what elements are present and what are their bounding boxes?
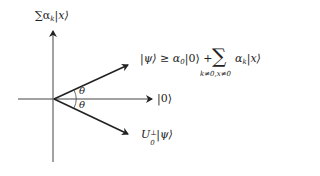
reflected-vector xyxy=(54,99,128,134)
sum-alpha-text: ∑α xyxy=(35,9,50,22)
perp-superscript: ⊥ xyxy=(150,130,157,137)
ket-psi: |ψ⟩ xyxy=(156,128,173,141)
angle-theta-lower: θ xyxy=(79,100,85,110)
psi-vector xyxy=(54,65,128,99)
summation-symbol: ∑ xyxy=(212,46,226,66)
psi-lhs: |ψ⟩ ≥ α0|0⟩ + xyxy=(140,53,212,66)
summation-limits: k≠0,x≠0 xyxy=(200,71,231,78)
angle-theta-upper: θ xyxy=(79,86,85,96)
zero-subscript: 0 xyxy=(150,140,154,147)
operator-u: U xyxy=(141,128,150,141)
vertical-axis-label: ∑αk|x⟩ xyxy=(35,10,69,23)
horizontal-axis-label: |0⟩ xyxy=(157,93,172,104)
psi-term: αk|x⟩ xyxy=(235,53,261,66)
ket-x-text: |x⟩ xyxy=(55,9,69,22)
reflected-vector-label: U⊥0|ψ⟩ xyxy=(141,129,173,140)
psi-vector-label: |ψ⟩ ≥ α0|0⟩ + ∑ k≠0,x≠0 αk|x⟩ xyxy=(140,53,273,93)
ket-zero-text: |0⟩ xyxy=(157,92,172,105)
